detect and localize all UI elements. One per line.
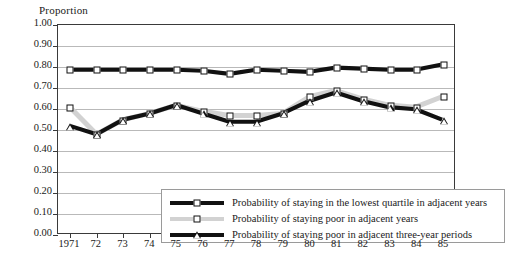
x-axis-tick-label: 72 — [90, 238, 101, 249]
data-point-marker — [119, 117, 127, 124]
data-point-marker — [413, 106, 421, 113]
x-axis-tick-label: 77 — [224, 238, 235, 249]
data-point-marker — [253, 119, 261, 126]
legend-label: Probability of staying poor in adjacent … — [232, 213, 418, 225]
data-point-marker — [67, 104, 74, 111]
data-point-marker — [414, 67, 421, 74]
data-point-marker — [147, 67, 154, 74]
data-point-marker — [441, 94, 448, 101]
y-axis-tick-label: 0.70 — [0, 81, 52, 91]
y-axis-tick-label: 0.10 — [0, 207, 52, 217]
y-axis-title: Proportion — [39, 4, 88, 16]
data-point-marker — [360, 66, 367, 73]
data-point-marker — [200, 110, 208, 117]
data-point-marker — [173, 102, 181, 109]
data-point-marker — [146, 110, 154, 117]
data-point-marker — [387, 67, 394, 74]
x-axis-tick-label: 73 — [117, 238, 128, 249]
x-axis-tick-label: 82 — [358, 238, 369, 249]
data-point-marker — [227, 71, 234, 78]
y-axis-tick-label: 0.60 — [0, 102, 52, 112]
y-axis-tick — [53, 235, 58, 236]
plot-area: Probability of staying in the lowest qua… — [57, 24, 455, 234]
data-point-marker — [441, 61, 448, 68]
data-point-marker — [93, 131, 101, 138]
legend-item: Probability of staying poor in adjacent … — [168, 211, 498, 226]
data-point-marker — [306, 98, 314, 105]
y-axis-tick-label: 0.40 — [0, 144, 52, 154]
data-point-marker — [360, 98, 368, 105]
x-axis-tick-label: 1971 — [59, 238, 80, 249]
data-point-marker — [307, 69, 314, 76]
data-point-marker — [67, 67, 74, 74]
data-point-marker — [440, 117, 448, 124]
x-axis-tick-label: 85 — [438, 238, 449, 249]
legend-label: Probability of staying in the lowest qua… — [232, 197, 487, 209]
y-axis-tick-label: 0.30 — [0, 165, 52, 175]
legend-key-poor-adjacent-years — [168, 213, 226, 225]
data-point-marker — [334, 65, 341, 72]
y-axis-tick-label: 0.20 — [0, 186, 52, 196]
x-axis-tick-label: 80 — [304, 238, 315, 249]
data-point-marker — [120, 67, 127, 74]
x-axis-tick-label: 75 — [171, 238, 182, 249]
chart-legend: Probability of staying in the lowest qua… — [161, 189, 505, 243]
x-axis-tick-label: 74 — [144, 238, 155, 249]
data-point-marker — [280, 68, 287, 75]
y-axis-tick-label: 1.00 — [0, 18, 52, 28]
data-point-marker — [66, 123, 74, 130]
legend-key-lowest-quartile — [168, 197, 226, 209]
x-axis-tick-label: 76 — [197, 238, 208, 249]
data-point-marker — [93, 67, 100, 74]
legend-item: Probability of staying in the lowest qua… — [168, 195, 498, 210]
y-axis-tick-label: 0.80 — [0, 60, 52, 70]
data-point-marker — [280, 110, 288, 117]
data-point-marker — [387, 104, 395, 111]
data-point-marker — [226, 119, 234, 126]
data-point-marker — [254, 67, 261, 74]
x-axis-tick-label: 81 — [331, 238, 342, 249]
data-point-marker — [200, 68, 207, 75]
x-axis-tick-label: 84 — [411, 238, 422, 249]
x-axis-tick-label: 79 — [277, 238, 288, 249]
x-axis-tick-label: 83 — [384, 238, 395, 249]
y-axis-tick-label: 0.00 — [0, 228, 52, 238]
data-point-marker — [173, 67, 180, 74]
y-axis-tick-label: 0.90 — [0, 39, 52, 49]
x-axis-tick-label: 78 — [251, 238, 262, 249]
data-point-marker — [333, 89, 341, 96]
legend-label: Probability of staying poor in adjacent … — [232, 229, 472, 241]
y-axis-tick-label: 0.50 — [0, 123, 52, 133]
